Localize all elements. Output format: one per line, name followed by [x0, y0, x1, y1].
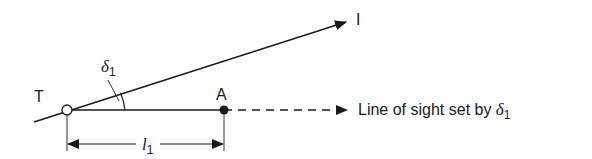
- line-of-sight-subscript: 1: [504, 108, 511, 122]
- point-t-label: T: [34, 88, 44, 105]
- point-a-marker: [220, 106, 229, 115]
- distance-subscript: 1: [147, 143, 154, 157]
- angle-arc: [121, 93, 126, 110]
- line-of-sight-text: Line of sight set by: [358, 101, 496, 118]
- line-of-sight-label: Line of sight set by δ1: [358, 100, 511, 122]
- point-t-marker: [62, 105, 72, 115]
- diagram-canvas: T A I δ1 l1 Line of sight set by δ1: [0, 0, 592, 159]
- inclined-ray-line: [34, 22, 346, 122]
- distance-label: l1: [142, 135, 154, 157]
- inclined-ray-label: I: [356, 11, 360, 28]
- angle-label: δ1: [101, 57, 116, 79]
- point-a-label: A: [216, 86, 227, 103]
- angle-subscript: 1: [109, 65, 116, 79]
